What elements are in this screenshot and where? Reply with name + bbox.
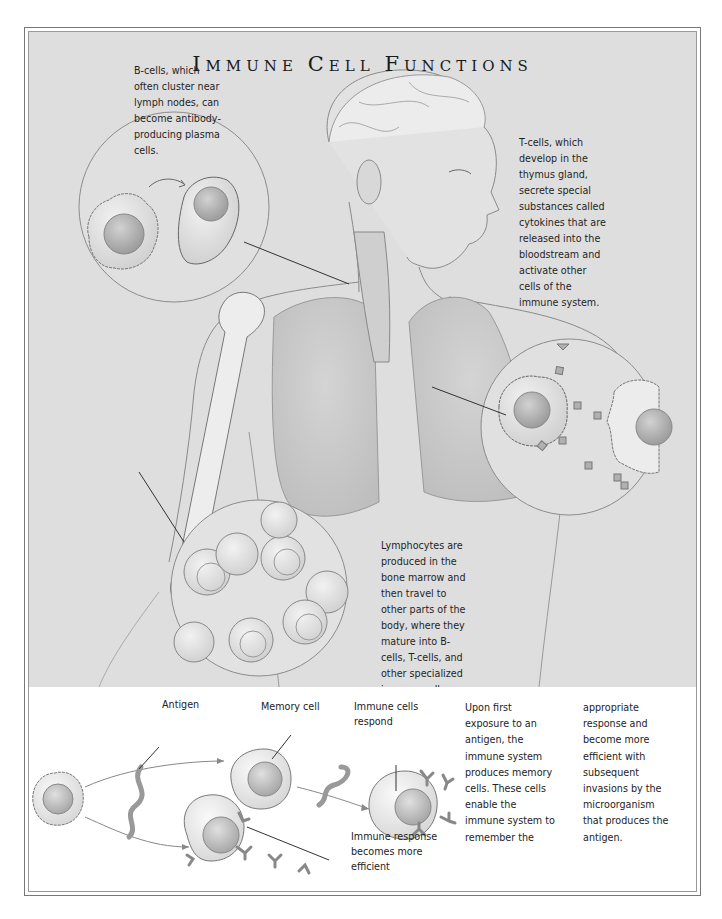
memory-cell-diagram-panel: Antigen Memory cell Immune cells respond… — [29, 687, 696, 891]
immune-cells-respond-label: Immune cells respond — [354, 699, 418, 729]
t-cell-magnifier — [481, 339, 672, 515]
immune-response-label: Immune response becomes more efficient — [351, 829, 437, 874]
antigen-label: Antigen — [162, 697, 199, 712]
anatomy-drawing — [29, 32, 696, 687]
memory-cell-label: Memory cell — [261, 699, 320, 714]
naive-lymphocyte — [33, 772, 84, 825]
antigen-squiggle — [129, 767, 142, 837]
page-title: IMMUNE CELL FUNCTIONS — [29, 52, 696, 76]
explanation-text-column-2: appropriate response and become more eff… — [583, 700, 668, 846]
t-cells-caption: T-cells, which develop in the thymus gla… — [519, 135, 606, 311]
memory-cell — [231, 735, 291, 809]
b-cells-caption: B-cells, which often cluster near lymph … — [134, 63, 221, 159]
lymphocytes-caption: Lymphocytes are produced in the bone mar… — [381, 538, 466, 698]
anatomy-illustration-panel: IMMUNE CELL FUNCTIONS B-cells, which oft… — [29, 32, 696, 687]
lymphocyte-magnifier — [171, 500, 348, 676]
left-lung — [272, 298, 379, 517]
illustration-frame: IMMUNE CELL FUNCTIONS B-cells, which oft… — [28, 31, 697, 892]
explanation-text-column-1: Upon first exposure to an antigen, the i… — [465, 700, 555, 846]
